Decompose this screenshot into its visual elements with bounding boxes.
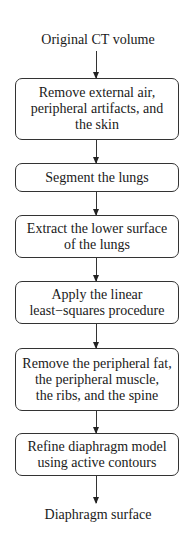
step-extract-lower-surface: Extract the lower surface of the lungs xyxy=(15,215,179,258)
arrow-step1-to-step2 xyxy=(96,140,97,163)
step-text: Segment the lungs xyxy=(45,170,148,186)
step-remove-air-skin: Remove external air, peripheral artifact… xyxy=(15,78,179,140)
step-remove-fat-muscle-ribs-spine: Remove the peripheral fat, the periphera… xyxy=(15,348,179,411)
step-refine-active-contours: Refine diaphragm model using active cont… xyxy=(15,433,179,476)
step-text: Remove the peripheral fat, the periphera… xyxy=(22,356,171,404)
step-text: Remove external air, peripheral artifact… xyxy=(31,85,164,133)
arrow-start-to-step1 xyxy=(96,51,97,78)
arrow-step5-to-step6 xyxy=(96,411,97,433)
start-label: Original CT volume xyxy=(0,32,190,48)
step-text: Extract the lower surface of the lungs xyxy=(27,221,167,253)
step-linear-least-squares: Apply the linear least−squares procedure xyxy=(15,281,179,324)
step-segment-lungs: Segment the lungs xyxy=(15,163,179,192)
step-text: Apply the linear least−squares procedure xyxy=(29,287,164,319)
arrow-step2-to-step3 xyxy=(96,192,97,215)
arrow-step4-to-step5 xyxy=(96,324,97,348)
arrow-step3-to-step4 xyxy=(96,258,97,281)
step-text: Refine diaphragm model using active cont… xyxy=(27,439,166,471)
arrow-step6-to-end xyxy=(96,476,97,503)
end-label: Diaphragm surface xyxy=(0,507,190,523)
